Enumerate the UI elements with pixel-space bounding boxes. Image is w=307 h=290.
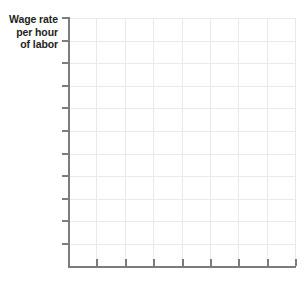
y-axis-tick	[62, 130, 68, 132]
x-axis-tick	[210, 259, 212, 266]
graph-figure: Wage rate per hour of labor	[0, 0, 307, 290]
x-axis-tick	[295, 259, 297, 266]
y-axis-title-line-1: Wage rate	[0, 13, 58, 26]
y-axis-title: Wage rate per hour of labor	[0, 13, 58, 51]
gridline-vertical	[96, 18, 97, 266]
y-axis-tick	[62, 62, 68, 64]
y-axis-title-line-2: per hour	[0, 26, 58, 39]
x-axis-tick	[238, 259, 240, 266]
y-axis-tick	[62, 220, 68, 222]
y-axis-line	[68, 17, 70, 268]
grid-layer	[68, 18, 295, 266]
y-axis-tick	[62, 243, 68, 245]
gridline-vertical	[210, 18, 211, 266]
x-axis-tick	[153, 259, 155, 266]
y-axis-tick	[62, 17, 68, 19]
y-axis-tick	[62, 85, 68, 87]
gridline-vertical	[267, 18, 268, 266]
x-axis-tick	[125, 259, 127, 266]
x-axis-tick	[267, 259, 269, 266]
x-axis-tick	[96, 259, 98, 266]
x-axis-tick	[182, 259, 184, 266]
gridline-vertical	[125, 18, 126, 266]
gridline-vertical	[238, 18, 239, 266]
y-axis-tick	[62, 153, 68, 155]
x-axis-line	[68, 266, 296, 268]
gridline-vertical	[295, 18, 296, 266]
plot-area[interactable]	[68, 18, 295, 266]
y-axis-tick	[62, 198, 68, 200]
y-axis-tick	[62, 175, 68, 177]
y-axis-tick	[62, 107, 68, 109]
y-axis-tick	[62, 40, 68, 42]
gridline-vertical	[182, 18, 183, 266]
gridline-vertical	[153, 18, 154, 266]
y-axis-title-line-3: of labor	[0, 38, 58, 51]
